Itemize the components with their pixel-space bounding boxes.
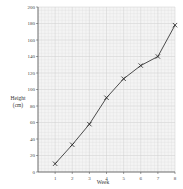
x-tick-labels: 12345678 — [54, 172, 177, 181]
svg-text:40: 40 — [30, 137, 36, 142]
svg-text:180: 180 — [28, 21, 36, 26]
svg-text:0: 0 — [33, 170, 36, 175]
svg-text:80: 80 — [30, 104, 36, 109]
svg-text:5: 5 — [122, 176, 125, 181]
svg-text:20: 20 — [30, 153, 36, 158]
svg-text:140: 140 — [28, 54, 36, 59]
svg-text:100: 100 — [28, 87, 36, 92]
y-tick-labels: 020406080100120140160180200 — [28, 5, 39, 175]
grid — [38, 7, 175, 172]
svg-text:6: 6 — [140, 176, 143, 181]
y-axis-label: Height — [11, 95, 26, 101]
line-chart: 020406080100120140160180200 12345678 Hei… — [0, 0, 183, 189]
svg-text:160: 160 — [28, 38, 36, 43]
x-axis-label: Week — [97, 179, 110, 185]
svg-text:7: 7 — [157, 176, 160, 181]
svg-text:200: 200 — [28, 5, 36, 10]
svg-text:3: 3 — [88, 176, 91, 181]
svg-text:8: 8 — [174, 176, 177, 181]
svg-text:120: 120 — [28, 71, 36, 76]
svg-text:2: 2 — [71, 176, 74, 181]
svg-text:60: 60 — [30, 120, 36, 125]
y-axis-unit: (cm) — [13, 102, 24, 109]
svg-text:1: 1 — [54, 176, 57, 181]
